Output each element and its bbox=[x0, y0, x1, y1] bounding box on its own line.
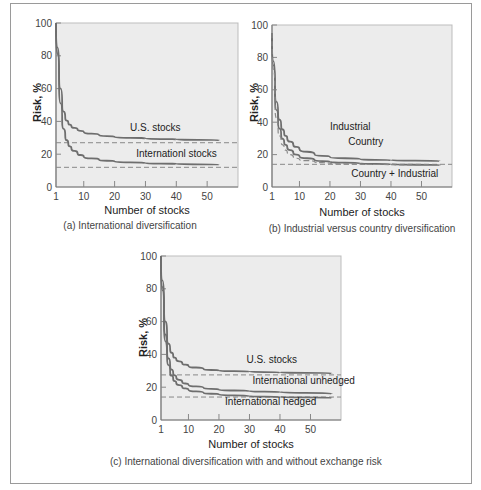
x-tick-label: 40 bbox=[274, 424, 286, 435]
y-tick-label: 0 bbox=[151, 415, 157, 426]
chart-c-plot: 02040608010011020304050U.S. stocksIntern… bbox=[0, 0, 481, 490]
series-annotation: U.S. stocks bbox=[246, 354, 297, 365]
y-tick-label: 20 bbox=[146, 382, 158, 393]
chart-c: 02040608010011020304050U.S. stocksIntern… bbox=[0, 0, 481, 490]
chart-c-caption: (c) International diversification with a… bbox=[110, 456, 380, 467]
chart-c-x-axis-label: Number of stocks bbox=[161, 438, 341, 450]
x-tick-label: 10 bbox=[183, 424, 195, 435]
y-tick-label: 80 bbox=[146, 283, 158, 294]
x-tick-label: 1 bbox=[158, 424, 164, 435]
series-annotation: International hedged bbox=[225, 396, 316, 407]
y-tick-label: 100 bbox=[140, 251, 157, 262]
x-tick-label: 50 bbox=[305, 424, 317, 435]
series-annotation: International unhedged bbox=[253, 375, 355, 386]
x-tick-label: 20 bbox=[213, 424, 225, 435]
x-tick-label: 30 bbox=[244, 424, 256, 435]
chart-c-y-axis-label: Risk, % bbox=[137, 318, 149, 357]
